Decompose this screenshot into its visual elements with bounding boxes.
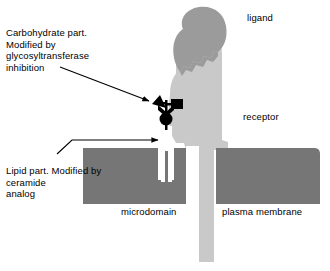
microdomain-receptor-gap <box>186 146 199 206</box>
sugar-square-icon <box>171 99 183 109</box>
plasma-membrane-label: plasma membrane <box>222 206 302 218</box>
diagram-canvas: Carbohydrate part. Modified by glycosylt… <box>0 0 330 271</box>
microdomain-label: microdomain <box>121 206 176 218</box>
carbohydrate-annotation: Carbohydrate part. Modified by glycosylt… <box>6 27 124 73</box>
receptor-label: receptor <box>243 111 279 123</box>
lipid-annotation: Lipid part. Modified by ceramide analog <box>6 165 106 200</box>
sugar-connector <box>159 102 167 105</box>
sugar-square-connector <box>166 103 172 106</box>
ligand-label: ligand <box>247 12 273 24</box>
plasma-membrane-block <box>216 148 320 204</box>
